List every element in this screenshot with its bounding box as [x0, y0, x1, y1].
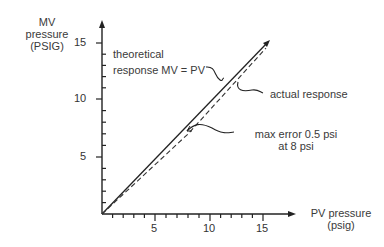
- x-tick-label: 15: [256, 222, 268, 234]
- max-error-leader: [187, 124, 234, 132]
- x-ticks: [113, 214, 263, 221]
- max-error-label: max error 0.5 psi at 8 psi: [244, 128, 348, 152]
- max-error-label-line: max error 0.5 psi: [244, 128, 348, 140]
- y-ticks: [96, 43, 106, 203]
- x-axis-arrow-icon: [288, 211, 296, 217]
- y-axis-title-line: (PSIG): [22, 40, 72, 52]
- theoretical-leader: [206, 67, 224, 81]
- max-error-label-line: at 8 psi: [244, 140, 348, 152]
- y-axis-arrow-icon: [99, 20, 105, 28]
- actual-response-label: actual response: [270, 88, 348, 100]
- y-tick-label: 15: [74, 36, 86, 48]
- x-axis-title-line: PV pressure: [306, 207, 376, 219]
- y-tick-label: 5: [80, 150, 86, 162]
- theoretical-label: theoretical response MV = PV: [113, 48, 205, 76]
- y-axis-title-line: pressure: [22, 28, 72, 40]
- y-axis-title: MV pressure (PSIG): [22, 16, 72, 52]
- x-tick-label: 10: [203, 222, 215, 234]
- theoretical-label-line: response MV = PV: [113, 64, 205, 76]
- actual-leader: [238, 82, 263, 93]
- y-tick-label: 10: [74, 92, 86, 104]
- x-tick-label: 5: [151, 222, 157, 234]
- chart-figure: MV pressure (PSIG) 15 10 5 5 10 15 theor…: [0, 0, 384, 247]
- y-axis-title-line: MV: [22, 16, 72, 28]
- theoretical-label-line: theoretical: [113, 48, 205, 60]
- x-axis-title-line: (psig): [306, 219, 376, 231]
- x-axis-title: PV pressure (psig): [306, 207, 376, 231]
